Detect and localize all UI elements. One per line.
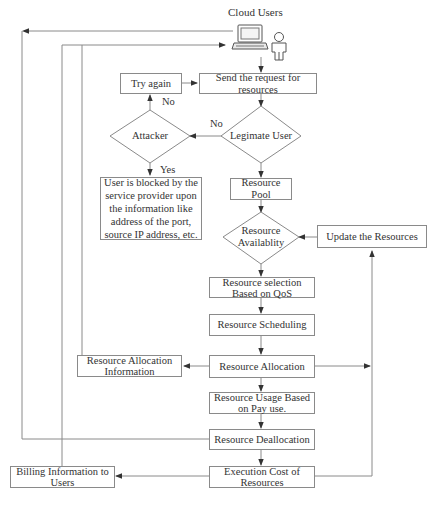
resource-scheduling-box: Resource Scheduling — [209, 314, 315, 336]
update-resources-box: Update the Resources — [317, 225, 427, 248]
resource-allocation-box: Resource Allocation — [209, 355, 315, 378]
cloud-users-title: Cloud Users — [228, 6, 283, 18]
user-blocked-box: User is blocked by the service provider … — [100, 177, 202, 240]
resource-usage-box: Resource Usage Based on Pay use. — [209, 392, 315, 414]
legit-no-label: No — [210, 118, 223, 129]
attacker-decision: Attacker — [116, 130, 184, 142]
resource-deallocation-box: Resource Deallocation — [209, 429, 315, 450]
laptop-icon — [232, 25, 268, 49]
flowchart: Cloud Users Try again Send the request f… — [0, 0, 440, 505]
attacker-yes-label: Yes — [160, 164, 175, 175]
user-icon — [272, 33, 286, 61]
attacker-no-label: No — [162, 96, 175, 107]
execution-cost-box: Execution Cost of Resources — [209, 466, 315, 488]
send-request-box: Send the request for resources — [199, 73, 317, 94]
resource-pool-box: Resource Pool — [230, 178, 292, 200]
resource-availability-decision: Resource Availablity — [226, 225, 296, 249]
billing-info-box: Billing Information to Users — [10, 466, 115, 488]
legitimate-user-decision: Legimate User — [224, 130, 298, 142]
try-again-box: Try again — [120, 73, 182, 94]
resource-selection-box: Resource selection Based on QoS — [209, 277, 315, 298]
resource-allocation-info-box: Resource Allocation Information — [77, 355, 182, 377]
